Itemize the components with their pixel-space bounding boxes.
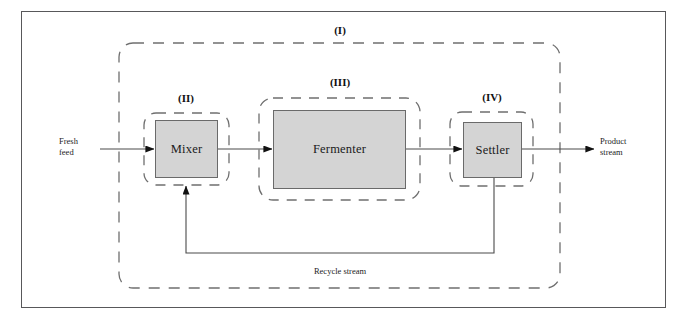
- product-stream-line2: stream: [600, 147, 626, 158]
- zone-label-II: (II): [156, 92, 216, 104]
- unit-mixer-label: Mixer: [171, 142, 203, 157]
- process-flow-diagram: Mixer Fermenter Settler (I) (II) (III) (…: [0, 0, 681, 323]
- fresh-feed-line1: Fresh: [59, 136, 78, 147]
- zone-label-I: (I): [310, 24, 370, 36]
- fresh-feed-line2: feed: [59, 147, 78, 158]
- stream-label-product-stream: Product stream: [600, 136, 626, 158]
- product-stream-line1: Product: [600, 136, 626, 147]
- zone-label-III: (III): [310, 76, 370, 88]
- unit-settler-label: Settler: [475, 143, 509, 158]
- unit-fermenter-label: Fermenter: [313, 142, 366, 157]
- unit-mixer[interactable]: Mixer: [155, 120, 218, 178]
- stream-label-recycle: Recycle stream: [280, 266, 400, 276]
- zone-label-IV: (IV): [462, 91, 522, 103]
- stream-line-recycle: [186, 178, 494, 253]
- unit-fermenter[interactable]: Fermenter: [273, 110, 406, 189]
- unit-settler[interactable]: Settler: [463, 122, 522, 178]
- stream-label-fresh-feed: Fresh feed: [59, 136, 78, 158]
